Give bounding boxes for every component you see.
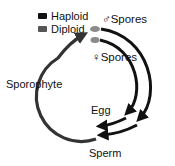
sperm-label: Sperm	[89, 147, 121, 159]
male-spores-label: ♂Spores	[102, 13, 147, 25]
female-spore	[91, 37, 100, 43]
egg-arrow	[101, 118, 126, 126]
egg-label: Egg	[91, 104, 111, 116]
sporophyte-label: Sporophyte	[6, 78, 62, 90]
female-spores-label: ♀Spores	[92, 51, 137, 63]
male-spore	[90, 26, 100, 32]
life-cycle-diagram: Haploid Diploid ♂Spores ♀Spores Sporophy…	[0, 0, 175, 166]
